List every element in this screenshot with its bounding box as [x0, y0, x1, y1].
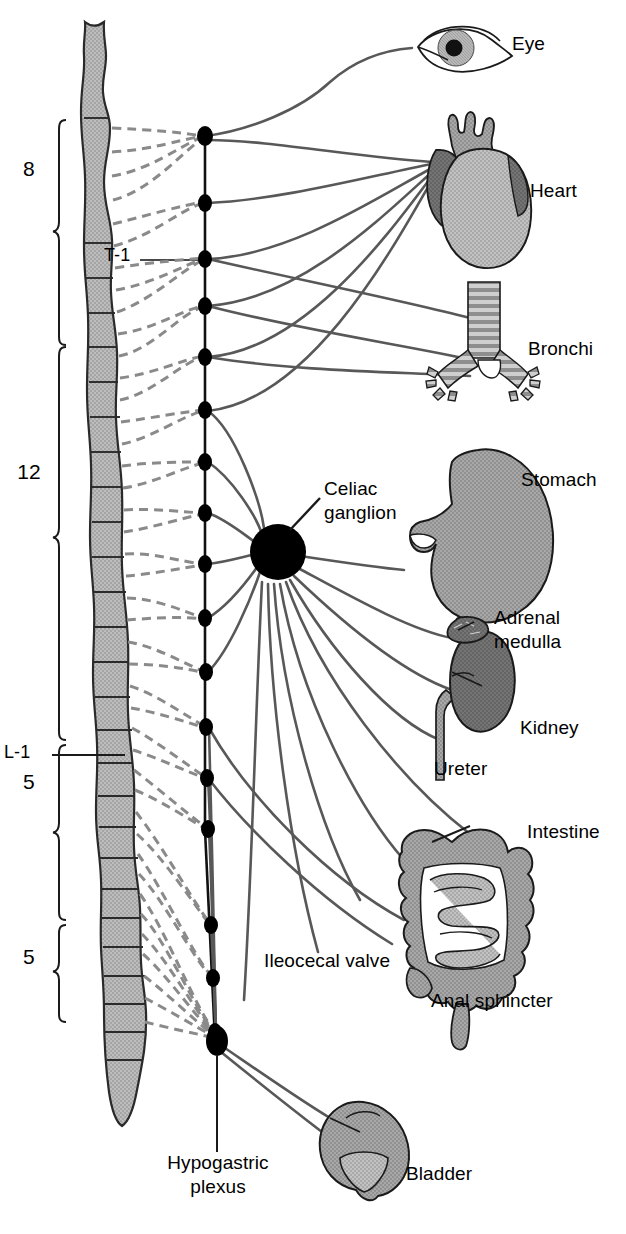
nerve-to-heart-2 [208, 164, 432, 203]
chain-ganglion [204, 916, 218, 934]
nerve-chain-to-intestine-long-1 [209, 728, 404, 920]
hypogastric-plexus-group [206, 1026, 228, 1152]
brace-12 [53, 347, 66, 740]
nerve-to-celiac-2 [208, 462, 262, 534]
nerve-to-celiac-6 [208, 572, 260, 672]
region-braces [53, 120, 66, 1022]
chain-ganglion [198, 609, 212, 627]
hypogastric-plexus-label-line1: Hypogastric [130, 1152, 306, 1173]
bronchi-branch [433, 388, 445, 400]
bronchi-branch [427, 367, 438, 378]
eye-pupil [446, 40, 463, 57]
intestine-organ [399, 830, 534, 1050]
chain-ganglion [197, 126, 213, 146]
chain-ganglion [198, 453, 212, 471]
organ-label-bronchi: Bronchi [528, 338, 593, 359]
nerve-to-bronchi-2 [208, 306, 472, 360]
adrenal-medulla-organ [447, 617, 488, 643]
organ-label-adrenal-medulla-line1: Adrenal [494, 607, 560, 628]
nerve-to-celiac-5 [208, 566, 258, 618]
nerve-to-celiac-3 [208, 513, 258, 544]
chain-ganglion [198, 555, 212, 573]
nerve-to-heart-1 [208, 140, 432, 162]
brace-5-lumbar [53, 745, 66, 920]
nerve-to-heart-3 [208, 168, 432, 259]
organ-label-eye: Eye [512, 33, 545, 54]
nerve-celiac-to-intestine-3 [274, 584, 360, 900]
nerve-celiac-to-kidney [294, 576, 452, 690]
chain-ganglion [206, 969, 220, 987]
bronchi-branch [530, 380, 540, 388]
organ-label-ureter: Ureter [434, 758, 487, 779]
chain-ganglion [199, 718, 213, 736]
organ-label-adrenal-medulla-line2: medulla [494, 631, 561, 652]
hypogastric-plexus-label-line2: plexus [130, 1176, 306, 1197]
bronchi-branch [521, 388, 533, 400]
organ-label-kidney: Kidney [520, 717, 579, 738]
hypogastric-plexus-node [206, 1026, 228, 1056]
nerve-to-eye [206, 48, 412, 136]
chain-ganglion [198, 348, 212, 366]
bronchi-branch [509, 391, 518, 401]
celiac-ganglion-node [250, 524, 306, 580]
bronchi-branch [528, 367, 539, 378]
segment-label-l1: L-1 [4, 742, 30, 762]
organ-label-stomach: Stomach [521, 469, 597, 490]
bronchi-branch [448, 391, 457, 401]
bronchi-organ [426, 282, 540, 401]
brace-label-12: 12 [8, 460, 50, 484]
organ-label-bladder: Bladder [406, 1163, 472, 1184]
nerve-to-bronchi-1 [208, 259, 470, 318]
organ-label-ileocecal-valve: Ileocecal valve [264, 950, 390, 971]
heart-organ [427, 112, 531, 268]
chain-ganglion [198, 194, 212, 212]
nerve-to-heart-6 [208, 180, 432, 411]
bladder-organ [320, 1102, 409, 1201]
organ-label-intestine: Intestine [527, 821, 600, 842]
chain-ganglion [198, 250, 212, 268]
bronchi-branch [426, 380, 436, 388]
chain-ganglion [201, 820, 215, 838]
nerve-to-celiac-4 [208, 554, 256, 564]
chain-ganglion [200, 769, 214, 787]
organ-label-anal-sphincter: Anal sphincter [431, 990, 553, 1011]
chain-ganglion [198, 297, 212, 315]
brace-label-5-lumbar: 5 [14, 770, 44, 794]
spinal-cord-body [81, 22, 146, 1126]
nerve-celiac-to-intestine-2 [280, 584, 404, 860]
chain-ganglion [198, 401, 212, 419]
bronchi-carina [478, 360, 501, 378]
brace-label-5-sacral: 5 [14, 945, 44, 969]
nerve-hypogastric-to-bladder-2 [221, 1052, 322, 1132]
nerve-celiac-to-stomach [300, 556, 404, 570]
bronchi-trachea [468, 282, 500, 358]
chain-ganglion [199, 663, 213, 681]
figure-canvas: 8 12 5 5 T-1 L-1 Celiac ganglion Hypogas… [0, 0, 626, 1234]
organ-label-heart: Heart [530, 180, 577, 201]
segment-label-t1: T-1 [104, 245, 130, 265]
brace-5-sacral [53, 925, 66, 1022]
brace-8 [53, 120, 66, 345]
celiac-ganglion-label-line1: Celiac [324, 478, 377, 499]
celiac-ganglion-label-line2: ganglion [324, 502, 397, 523]
brace-label-8: 8 [14, 157, 44, 181]
spinal-cord-group [81, 22, 146, 1126]
celiac-ganglion-leader [290, 498, 320, 530]
eye-organ [418, 27, 512, 72]
chain-ganglion [198, 504, 212, 522]
nerve-hypogastric-to-bladder-1 [222, 1046, 330, 1118]
